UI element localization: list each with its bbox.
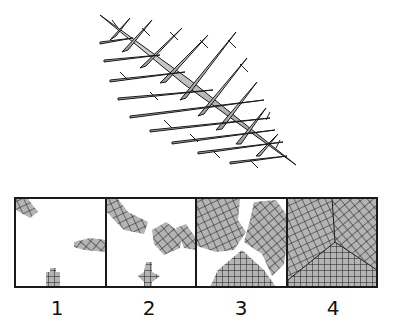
grain-growth-panels	[0, 0, 396, 333]
panel-label-1: 1	[42, 296, 72, 320]
panel-3	[197, 199, 288, 287]
panel-label-4: 4	[318, 296, 348, 320]
panel-4	[288, 198, 377, 287]
panel-2	[107, 199, 196, 287]
panel-label-2: 2	[134, 296, 164, 320]
panel-1	[16, 199, 106, 287]
panel-label-3: 3	[226, 296, 256, 320]
